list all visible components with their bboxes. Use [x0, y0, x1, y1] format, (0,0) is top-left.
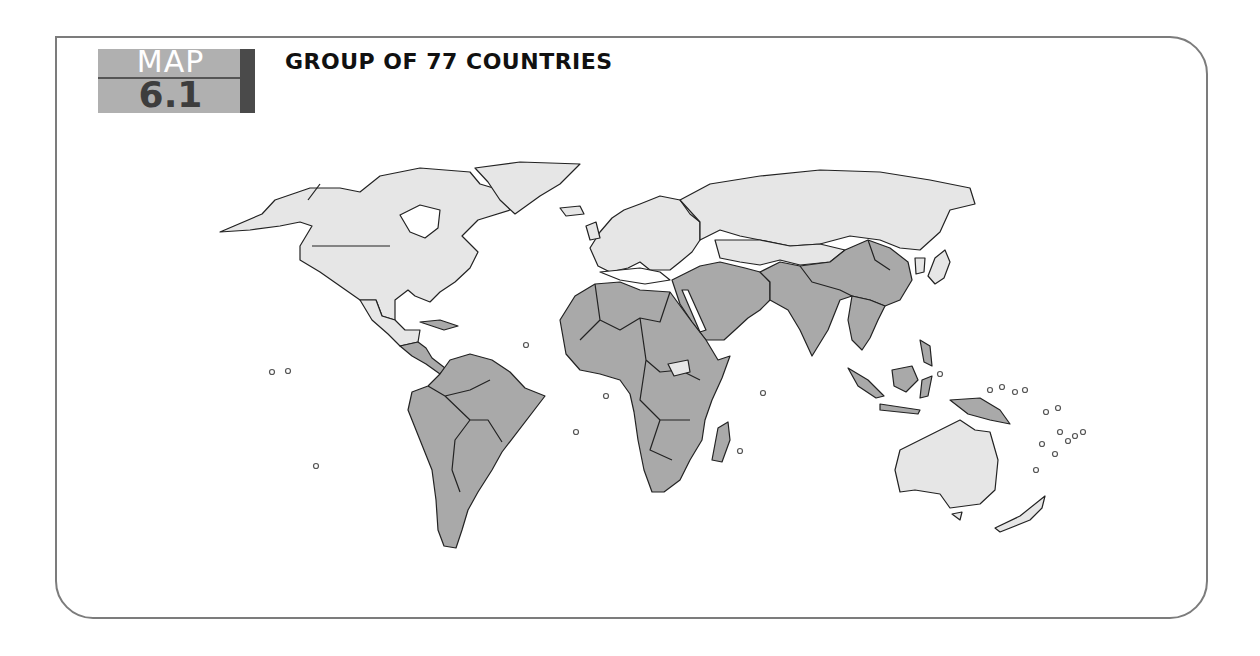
new-zealand — [995, 496, 1045, 532]
tasmania — [952, 512, 962, 520]
borneo — [892, 366, 918, 392]
indonesia-sumatra — [848, 368, 884, 398]
madagascar — [712, 422, 730, 462]
world-map — [0, 0, 1260, 656]
cuba — [420, 320, 458, 330]
java — [880, 404, 920, 414]
europe — [590, 196, 700, 272]
central-asia-north — [715, 240, 845, 265]
australia — [895, 420, 998, 508]
korea — [915, 258, 925, 274]
southeast-asia — [848, 296, 885, 350]
north-america — [220, 168, 510, 320]
sulawesi — [920, 376, 932, 398]
central-america — [400, 342, 445, 374]
philippines — [920, 340, 932, 366]
iceland — [560, 206, 584, 216]
south-america — [408, 354, 545, 548]
uk — [586, 222, 600, 240]
japan — [928, 250, 950, 284]
russia — [680, 170, 975, 250]
